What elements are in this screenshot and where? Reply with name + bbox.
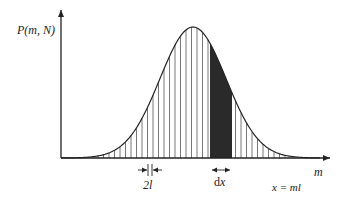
interval-label: dx bbox=[214, 175, 226, 189]
spacing-marker bbox=[138, 164, 162, 176]
interval-label-x: x bbox=[219, 175, 226, 189]
relation-label: x = ml bbox=[271, 181, 301, 193]
y-axis-label: P(m, N) bbox=[16, 23, 55, 37]
gaussian-curve bbox=[61, 27, 320, 158]
spacing-label: 2l bbox=[143, 178, 153, 192]
shaded-interval-region bbox=[210, 43, 232, 158]
gaussian-distribution-diagram: P(m, N) m x = ml 2l dx bbox=[0, 0, 344, 203]
x-axis-label: m bbox=[314, 165, 323, 179]
